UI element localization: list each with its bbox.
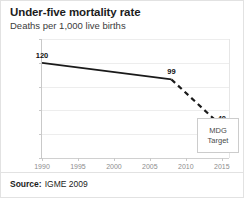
plot-frame: 0306090120150 199019952000200520102015 1… (41, 39, 230, 158)
x-tick-label: 2010 (178, 163, 194, 170)
chart-footer: Source:IGME 2009 (1, 172, 244, 197)
source-note: Source:IGME 2009 (10, 179, 88, 189)
mdg-target-callout: MDG Target (197, 118, 239, 153)
x-tick-label: 2005 (142, 163, 158, 170)
chart-card: Under-five mortality rate Deaths per 1,0… (0, 0, 244, 198)
x-tick-mark (186, 158, 187, 161)
data-point-label: 99 (167, 67, 175, 76)
mdg-target-line-1: MDG (209, 126, 227, 135)
source-label: Source: (10, 179, 42, 189)
page-title: Under-five mortality rate (10, 6, 236, 19)
series-line (42, 63, 171, 80)
chart-header: Under-five mortality rate Deaths per 1,0… (10, 6, 236, 32)
mdg-target-line-2: Target (208, 136, 229, 145)
x-tick-label: 2015 (214, 163, 230, 170)
x-tick-mark (78, 158, 79, 161)
x-tick-label: 1990 (34, 163, 50, 170)
x-tick-mark (222, 158, 223, 161)
x-tick-label: 2000 (106, 163, 122, 170)
source-value: IGME 2009 (45, 179, 88, 189)
chart-plot-area: 0306090120150 199019952000200520102015 1… (1, 35, 244, 167)
x-tick-mark (150, 158, 151, 161)
x-tick-mark (42, 158, 43, 161)
x-tick-mark (114, 158, 115, 161)
chart-subtitle: Deaths per 1,000 live births (10, 20, 236, 32)
gridline (42, 158, 229, 159)
x-tick-label: 1995 (70, 163, 86, 170)
data-point-label: 120 (36, 51, 49, 60)
